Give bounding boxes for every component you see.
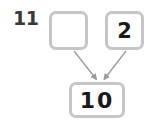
sum-box[interactable]: 10	[69, 82, 125, 118]
arrow-right-to-sum-icon	[104, 51, 126, 80]
addend-box-left[interactable]	[49, 11, 88, 50]
addend-right-value: 2	[117, 19, 132, 43]
arrow-left-to-sum-icon	[74, 51, 97, 80]
addend-box-right[interactable]: 2	[105, 11, 144, 50]
sum-value: 10	[80, 88, 115, 113]
question-number: 11	[13, 8, 38, 28]
number-bond-worksheet: 11 2 10	[0, 0, 153, 125]
